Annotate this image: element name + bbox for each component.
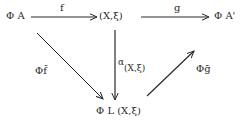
node-phi-a: Φ A xyxy=(6,11,25,21)
arrow-phi-g-bar xyxy=(147,51,194,96)
node-phi-a-prime: Φ A' xyxy=(214,11,235,21)
label-phi-f-bar: Φf̄ xyxy=(35,66,47,76)
label-g: g xyxy=(174,3,180,13)
label-phi-g-bar: Φḡ xyxy=(196,64,211,74)
node-phi-l-x-xi: Φ L (X,ξ) xyxy=(96,106,141,116)
node-x-xi: (X,ξ) xyxy=(99,11,123,21)
commutative-diagram: Φ A (X,ξ) Φ A' Φ L (X,ξ) f g α (X,ξ) Φf̄… xyxy=(0,0,247,125)
label-alpha-sub: (X,ξ) xyxy=(124,64,145,73)
label-f: f xyxy=(60,3,64,13)
